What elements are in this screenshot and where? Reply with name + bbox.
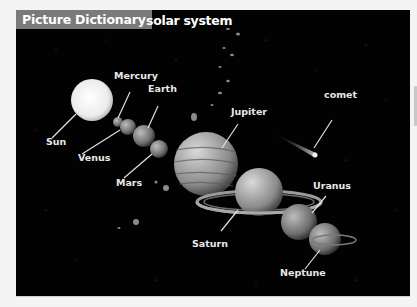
label-earth: Earth <box>148 83 177 94</box>
asteroid-belt <box>118 28 241 229</box>
topic-title: solar system <box>146 13 232 28</box>
neptune <box>309 223 356 255</box>
picture-dictionary-panel: Picture Dictionary solar system Sun Merc… <box>16 10 410 296</box>
label-comet: comet <box>324 89 357 100</box>
comet <box>271 132 318 158</box>
mars <box>150 140 168 158</box>
label-jupiter: Jupiter <box>231 106 267 117</box>
label-mars: Mars <box>116 177 142 188</box>
panel-bottom-border <box>16 296 410 297</box>
earth <box>133 125 155 147</box>
jupiter <box>174 132 238 196</box>
label-sun: Sun <box>46 136 66 147</box>
solar-system-illustration <box>16 10 410 296</box>
label-saturn: Saturn <box>192 238 228 249</box>
label-uranus: Uranus <box>313 180 351 191</box>
label-venus: Venus <box>78 152 110 163</box>
sun <box>71 79 113 121</box>
picture-dictionary-badge: Picture Dictionary <box>16 10 152 29</box>
label-neptune: Neptune <box>280 267 326 278</box>
label-mercury: Mercury <box>114 70 158 81</box>
